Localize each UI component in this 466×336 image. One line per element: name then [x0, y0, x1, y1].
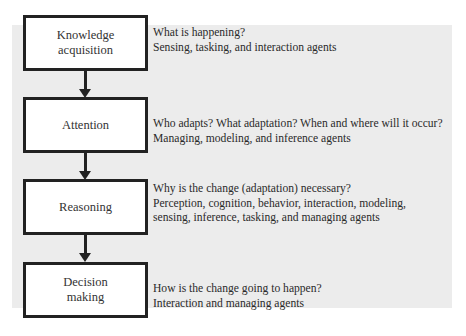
arrow-shaft — [84, 153, 87, 173]
stage-question: What is happening? — [153, 26, 337, 41]
stage-label-line: making — [63, 290, 107, 305]
stage-agents: Interaction and managing agents — [153, 297, 322, 312]
stage-question: How is the change going to happen? — [153, 282, 322, 297]
stage-label-line: Knowledge — [57, 28, 115, 43]
stage-question: Why is the change (adaptation) necessary… — [153, 182, 406, 197]
stage-box-reasoning: Reasoning — [23, 179, 148, 235]
stage-label-line: acquisition — [57, 43, 115, 58]
stage-agents: Sensing, tasking, and interaction agents — [153, 41, 337, 56]
down-arrow-icon — [83, 71, 89, 98]
stage-question: Who adapts? What adaptation? When and wh… — [153, 117, 443, 132]
arrow-head — [79, 253, 91, 262]
stage-box-attention: Attention — [23, 97, 148, 153]
arrow-shaft — [84, 235, 87, 255]
stage-description-decision-making: How is the change going to happen? Inter… — [153, 282, 322, 311]
stage-label-line: Decision — [63, 275, 107, 290]
stage-agents: Managing, modeling, and inference agents — [153, 132, 443, 147]
stage-agents: sensing, inference, tasking, and managin… — [153, 211, 406, 226]
down-arrow-icon — [83, 235, 89, 262]
stage-label-line: Attention — [62, 118, 109, 133]
stage-description-attention: Who adapts? What adaptation? When and wh… — [153, 117, 443, 146]
stage-description-knowledge-acquisition: What is happening? Sensing, tasking, and… — [153, 26, 337, 55]
stage-box-decision-making: Decision making — [23, 262, 148, 318]
stage-agents: Perception, cognition, behavior, interac… — [153, 197, 406, 212]
stage-description-reasoning: Why is the change (adaptation) necessary… — [153, 182, 406, 226]
stage-box-knowledge-acquisition: Knowledge acquisition — [23, 15, 148, 71]
down-arrow-icon — [83, 153, 89, 180]
stage-label-line: Reasoning — [59, 200, 112, 215]
arrow-shaft — [84, 71, 87, 91]
